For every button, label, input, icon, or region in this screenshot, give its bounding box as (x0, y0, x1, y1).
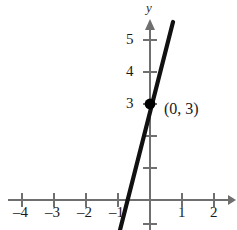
plotted-line (120, 22, 173, 230)
y-tick-label-4: 4 (126, 64, 134, 79)
x-tick-label-minus3: –3 (45, 205, 60, 220)
coordinate-plane (0, 0, 237, 230)
x-tick-label-2: 2 (210, 205, 218, 220)
x-tick-label-1: 1 (178, 205, 186, 220)
point-marker-0-3 (145, 99, 156, 110)
y-tick-label-5: 5 (126, 32, 134, 47)
y-axis-label: y (146, 1, 152, 14)
x-tick-label-minus2: –2 (77, 205, 92, 220)
graph-figure: y 5 4 3 –4 –3 –2 –1 1 2 (0, 3) (0, 0, 237, 230)
x-tick-label-minus1: –1 (109, 205, 124, 220)
x-tick-label-minus4: –4 (13, 205, 28, 220)
y-tick-label-3: 3 (126, 96, 134, 111)
point-annotation-label: (0, 3) (164, 101, 199, 117)
